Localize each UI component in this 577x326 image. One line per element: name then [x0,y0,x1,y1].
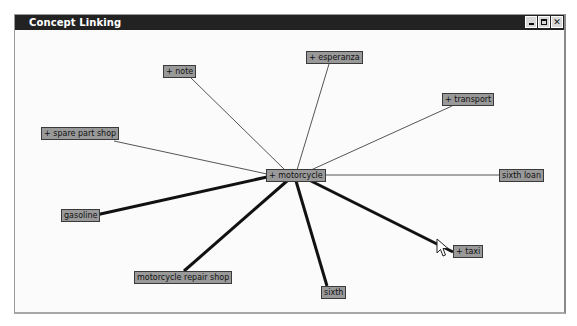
close-icon: ✕ [553,17,561,27]
titlebar[interactable]: Concept Linking ✕ [15,15,564,30]
edge-motorcycle-note [191,78,285,170]
maximize-button[interactable] [538,16,550,28]
concept-linking-window: Concept Linking ✕ + motorcycle+ note+ es… [14,14,566,314]
edge-motorcycle-taxi [311,181,453,252]
concept-node-note[interactable]: + note [163,65,196,78]
edge-motorcycle-spare_part_shop [114,141,267,174]
concept-node-sixth-loan[interactable]: sixth loan [499,169,544,182]
graph-canvas[interactable]: + motorcycle+ note+ esperanza+ transport… [15,30,564,312]
edge-motorcycle-transport [311,106,452,170]
window-title: Concept Linking [29,16,121,29]
concept-node-taxi[interactable]: + taxi [453,245,483,258]
concept-node-motorcycle-repair-shop[interactable]: motorcycle repair shop [134,271,232,284]
concept-node-sixth[interactable]: sixth [321,286,346,299]
edge-motorcycle-sixth [296,181,327,286]
window-controls: ✕ [525,16,563,28]
close-button[interactable]: ✕ [551,16,563,28]
concept-node-spare-part-shop[interactable]: + spare part shop [41,127,119,140]
concept-node-transport[interactable]: + transport [442,93,494,106]
concept-node-gasoline[interactable]: gasoline [61,209,100,222]
edge-motorcycle-gasoline [96,177,267,215]
mouse-pointer-icon [436,238,450,258]
edge-motorcycle-esperanza [297,64,329,170]
concept-node-esperanza[interactable]: + esperanza [306,51,363,64]
concept-node-motorcycle[interactable]: + motorcycle [266,169,326,182]
minimize-button[interactable] [525,16,537,28]
edge-motorcycle-motorcycle_repair_shop [184,181,287,271]
